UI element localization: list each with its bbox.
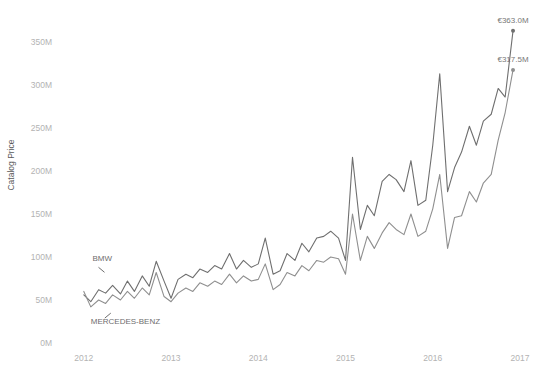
y-axis-title: Catalog Price <box>6 139 16 190</box>
x-tick-label: 2014 <box>249 353 268 363</box>
chart-canvas: 0M50M100M150M200M250M300M350M 2012201320… <box>0 0 550 369</box>
end-value-label-mercedes-benz: €317.5M <box>497 55 528 64</box>
x-tick-label: 2015 <box>336 353 355 363</box>
chart-background <box>0 0 550 369</box>
x-tick-label: 2016 <box>423 353 442 363</box>
y-tick-label: 150M <box>31 209 52 219</box>
series-label-mercedes-benz: MERCEDES-BENZ <box>91 317 160 326</box>
y-tick-label: 200M <box>31 166 52 176</box>
series-label-bmw: BMW <box>93 254 113 263</box>
end-value-label-bmw: €363.0M <box>497 16 528 25</box>
end-marker-bmw <box>511 29 515 33</box>
x-tick-label: 2017 <box>511 353 530 363</box>
y-tick-label: 50M <box>35 295 52 305</box>
x-tick-label: 2012 <box>74 353 93 363</box>
catalog-price-line-chart: 0M50M100M150M200M250M300M350M 2012201320… <box>0 0 550 369</box>
y-tick-label: 0M <box>40 338 52 348</box>
y-tick-label: 250M <box>31 123 52 133</box>
y-tick-label: 350M <box>31 37 52 47</box>
end-marker-mercedes-benz <box>511 68 515 72</box>
y-tick-label: 100M <box>31 252 52 262</box>
y-tick-label: 300M <box>31 80 52 90</box>
x-tick-label: 2013 <box>162 353 181 363</box>
